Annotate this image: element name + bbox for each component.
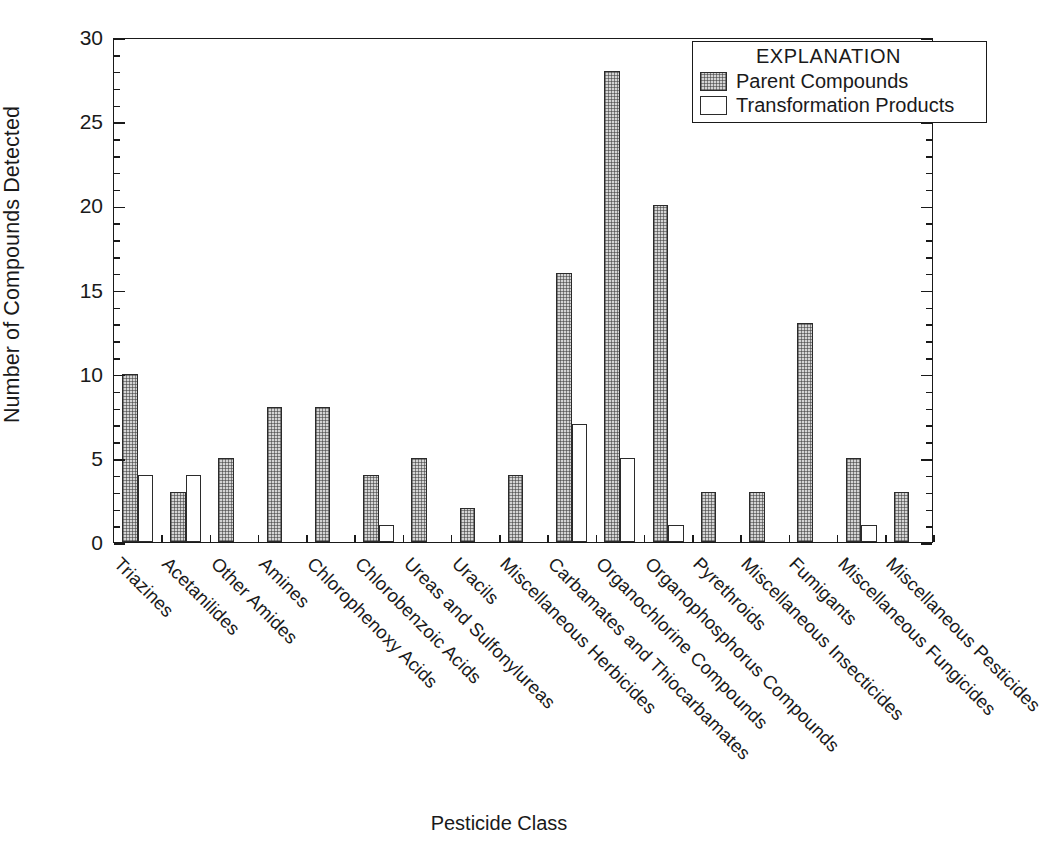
- y-axis-minor-tick: [926, 476, 932, 478]
- y-axis-minor-tick: [926, 409, 932, 411]
- bar-parent-compounds: [556, 273, 572, 542]
- y-axis-minor-tick: [114, 358, 120, 360]
- y-axis-minor-tick: [114, 341, 120, 343]
- y-axis-major-tick: [114, 459, 125, 461]
- x-axis-title: Pesticide Class: [0, 812, 998, 835]
- y-axis-minor-tick: [114, 526, 120, 528]
- y-axis-minor-tick: [114, 274, 120, 276]
- y-axis-minor-tick: [114, 324, 120, 326]
- x-axis-tick: [403, 535, 405, 542]
- x-axis-tick: [789, 535, 791, 542]
- y-axis-minor-tick: [114, 240, 120, 242]
- bar-parent-compounds: [267, 407, 283, 542]
- y-axis-major-tick: [921, 543, 932, 545]
- legend-entry-transformation-products: Transformation Products: [700, 94, 979, 117]
- y-axis-minor-tick: [114, 476, 120, 478]
- y-axis-minor-tick: [926, 510, 932, 512]
- y-axis-minor-tick: [114, 392, 120, 394]
- legend-swatch-parent-icon: [700, 72, 727, 91]
- x-axis-tick: [644, 535, 646, 542]
- bar-transformation-products: [379, 525, 395, 542]
- y-axis-major-tick: [114, 375, 125, 377]
- y-axis-minor-tick: [114, 257, 120, 259]
- x-axis-tick: [740, 535, 742, 542]
- x-axis-tick: [161, 535, 163, 542]
- y-axis-minor-tick: [114, 139, 120, 141]
- x-axis-tick: [258, 535, 260, 542]
- y-tick-label: 25: [57, 110, 103, 134]
- bar-parent-compounds: [170, 492, 186, 543]
- y-axis-minor-tick: [114, 173, 120, 175]
- y-axis-major-tick: [921, 291, 932, 293]
- x-axis-tick: [837, 535, 839, 542]
- bar-parent-compounds: [508, 475, 524, 542]
- y-axis-major-tick: [921, 207, 932, 209]
- bar-parent-compounds: [894, 492, 910, 543]
- x-axis-tick: [306, 535, 308, 542]
- bar-transformation-products: [186, 475, 202, 542]
- y-tick-label: 15: [57, 279, 103, 303]
- y-tick-label: 5: [57, 447, 103, 471]
- x-axis-tick: [354, 535, 356, 542]
- y-axis-minor-tick: [926, 341, 932, 343]
- bar-parent-compounds: [122, 374, 138, 542]
- y-axis-minor-tick: [926, 358, 932, 360]
- y-tick-label: 10: [57, 363, 103, 387]
- bar-parent-compounds: [604, 71, 620, 542]
- bar-parent-compounds: [701, 492, 717, 543]
- y-axis-minor-tick: [926, 324, 932, 326]
- bar-parent-compounds: [411, 458, 427, 542]
- plot-area: EXPLANATION Parent Compounds Transformat…: [113, 38, 933, 543]
- bar-transformation-products: [138, 475, 154, 542]
- y-axis-minor-tick: [926, 274, 932, 276]
- y-tick-label: 30: [57, 26, 103, 50]
- y-axis-major-tick: [114, 38, 125, 40]
- y-axis-minor-tick: [926, 139, 932, 141]
- x-axis-tick: [499, 535, 501, 542]
- bar-parent-compounds: [749, 492, 765, 543]
- bar-transformation-products: [572, 424, 588, 542]
- legend-label-parent: Parent Compounds: [736, 70, 908, 93]
- y-axis-major-tick: [114, 207, 125, 209]
- bar-transformation-products: [620, 458, 636, 542]
- x-axis-tick: [451, 535, 453, 542]
- legend-entry-parent-compounds: Parent Compounds: [700, 70, 979, 93]
- y-axis-minor-tick: [926, 308, 932, 310]
- y-axis-minor-tick: [926, 156, 932, 158]
- bar-transformation-products: [861, 525, 877, 542]
- y-axis-minor-tick: [114, 55, 120, 57]
- bar-parent-compounds: [363, 475, 379, 542]
- y-axis-minor-tick: [114, 442, 120, 444]
- y-axis-major-tick: [921, 375, 932, 377]
- y-axis-title: Number of Compounds Detected: [0, 0, 25, 595]
- y-axis-minor-tick: [926, 223, 932, 225]
- legend: EXPLANATION Parent Compounds Transformat…: [692, 41, 987, 123]
- y-axis-minor-tick: [926, 190, 932, 192]
- y-axis-minor-tick: [114, 156, 120, 158]
- bar-transformation-products: [668, 525, 684, 542]
- x-axis-tick: [547, 535, 549, 542]
- x-tick-labels: TriazinesAcetanilidesOther AmidesAminesC…: [0, 547, 998, 807]
- y-axis-minor-tick: [114, 106, 120, 108]
- y-axis-minor-tick: [114, 190, 120, 192]
- x-axis-tick: [596, 535, 598, 542]
- y-axis-major-tick: [114, 543, 125, 545]
- x-axis-tick: [210, 535, 212, 542]
- y-tick-label: 20: [57, 194, 103, 218]
- y-axis-minor-tick: [926, 442, 932, 444]
- y-axis-minor-tick: [114, 89, 120, 91]
- bar-parent-compounds: [460, 508, 476, 542]
- y-axis-major-tick: [921, 459, 932, 461]
- bar-parent-compounds: [315, 407, 331, 542]
- y-axis-minor-tick: [114, 223, 120, 225]
- y-axis-minor-tick: [926, 526, 932, 528]
- bar-parent-compounds: [653, 205, 669, 542]
- y-axis-minor-tick: [114, 493, 120, 495]
- legend-swatch-transformation-icon: [700, 96, 727, 115]
- legend-label-transformation: Transformation Products: [736, 94, 954, 117]
- y-axis-minor-tick: [926, 425, 932, 427]
- y-axis-minor-tick: [114, 409, 120, 411]
- y-axis-minor-tick: [114, 72, 120, 74]
- y-axis-minor-tick: [926, 173, 932, 175]
